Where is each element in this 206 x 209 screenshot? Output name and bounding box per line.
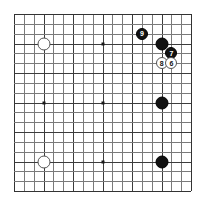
grid-line-horizontal <box>14 132 191 133</box>
star-point <box>42 101 45 104</box>
grid-line-horizontal <box>14 122 191 123</box>
stone-black[interactable] <box>155 155 168 168</box>
stone-black-9[interactable]: 9 <box>136 28 148 40</box>
grid-line-horizontal <box>14 24 191 25</box>
grid-line-horizontal <box>14 112 191 113</box>
grid-line-horizontal <box>14 171 191 172</box>
grid-line-horizontal <box>14 152 191 153</box>
stone-black[interactable] <box>155 37 168 50</box>
grid-line-horizontal <box>14 73 191 74</box>
grid-line-horizontal <box>14 83 191 84</box>
stone-number-label: 6 <box>170 60 174 67</box>
star-point <box>101 42 104 45</box>
grid-line-horizontal <box>14 142 191 143</box>
stone-white[interactable] <box>37 37 50 50</box>
stone-white[interactable] <box>37 155 50 168</box>
grid-line-vertical <box>191 14 192 191</box>
grid-line-horizontal <box>14 14 191 15</box>
grid-line-horizontal <box>14 181 191 182</box>
stone-number-label: 9 <box>140 30 144 37</box>
stone-number-label: 8 <box>160 60 164 67</box>
stone-number-label: 7 <box>170 50 174 57</box>
grid-line-horizontal <box>14 93 191 94</box>
goban-grid[interactable]: 9786 <box>14 14 191 191</box>
stone-black[interactable] <box>155 96 168 109</box>
grid-line-horizontal <box>14 34 191 35</box>
star-point <box>101 160 104 163</box>
go-board-diagram: 9786 <box>0 0 206 209</box>
star-point <box>101 101 104 104</box>
grid-line-horizontal <box>14 191 191 192</box>
stone-white-6[interactable]: 6 <box>165 57 177 69</box>
